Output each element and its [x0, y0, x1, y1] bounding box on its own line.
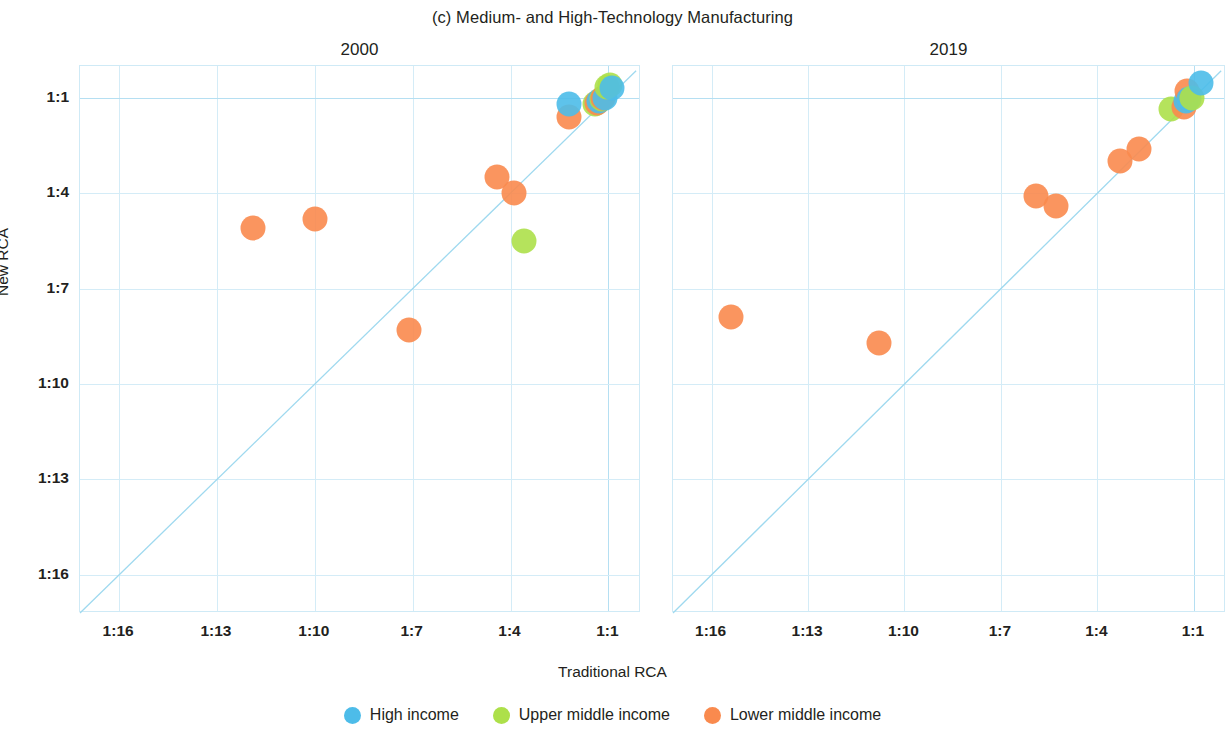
x-axis-tick-label: 1:16 — [695, 622, 726, 640]
x-axis-tick-label: 1:10 — [888, 622, 919, 640]
legend-swatch-circle-icon — [704, 707, 721, 724]
legend-swatch-circle-icon — [493, 707, 510, 724]
scatter-point[interactable] — [501, 181, 526, 206]
x-axis-title: Traditional RCA — [0, 663, 1225, 681]
y-axis-tick-label: 1:13 — [7, 469, 69, 487]
scatter-point[interactable] — [866, 330, 891, 355]
figure-canvas: (c) Medium- and High-Technology Manufact… — [0, 0, 1225, 736]
x-axis-tick-label: 1:13 — [200, 622, 231, 640]
scatter-point[interactable] — [240, 216, 265, 241]
figure-title: (c) Medium- and High-Technology Manufact… — [0, 8, 1225, 27]
x-axis-tick-label: 1:7 — [989, 622, 1011, 640]
y-axis-tick-label: 1:4 — [7, 183, 69, 201]
x-axis-tick-label: 1:1 — [1182, 622, 1204, 640]
x-axis-tick-label: 1:4 — [498, 622, 520, 640]
scatter-plot-panel-2000 — [79, 65, 640, 612]
legend-item[interactable]: High income — [344, 706, 459, 724]
y-axis-tick-label: 1:1 — [7, 88, 69, 106]
y-axis-tick-label: 1:10 — [7, 374, 69, 392]
scatter-point[interactable] — [1127, 136, 1152, 161]
x-axis-tick-label: 1:16 — [103, 622, 134, 640]
diagonal-reference-line — [80, 66, 639, 611]
legend-item[interactable]: Lower middle income — [704, 706, 881, 724]
scatter-plot-panel-2019 — [672, 65, 1225, 612]
legend: High incomeUpper middle incomeLower midd… — [0, 706, 1225, 724]
legend-item-label: High income — [370, 706, 459, 724]
panel-title-2019: 2019 — [672, 40, 1225, 60]
x-axis-tick-label: 1:1 — [596, 622, 618, 640]
y-axis-tick-label: 1:16 — [7, 565, 69, 583]
scatter-point[interactable] — [557, 92, 582, 117]
legend-item-label: Upper middle income — [519, 706, 670, 724]
scatter-point[interactable] — [302, 206, 327, 231]
scatter-point[interactable] — [397, 317, 422, 342]
panel-title-2000: 2000 — [79, 40, 640, 60]
legend-item[interactable]: Upper middle income — [493, 706, 670, 724]
x-axis-tick-label: 1:13 — [792, 622, 823, 640]
legend-swatch-circle-icon — [344, 707, 361, 724]
y-axis-title: New RCA — [0, 228, 12, 296]
x-axis-tick-label: 1:7 — [400, 622, 422, 640]
scatter-point[interactable] — [1043, 193, 1068, 218]
scatter-point[interactable] — [1188, 70, 1213, 95]
scatter-point[interactable] — [511, 228, 536, 253]
y-axis-tick-label: 1:7 — [7, 279, 69, 297]
x-axis-tick-label: 1:4 — [1085, 622, 1107, 640]
x-axis-tick-label: 1:10 — [298, 622, 329, 640]
legend-item-label: Lower middle income — [730, 706, 881, 724]
scatter-point[interactable] — [718, 305, 743, 330]
scatter-point[interactable] — [599, 76, 624, 101]
